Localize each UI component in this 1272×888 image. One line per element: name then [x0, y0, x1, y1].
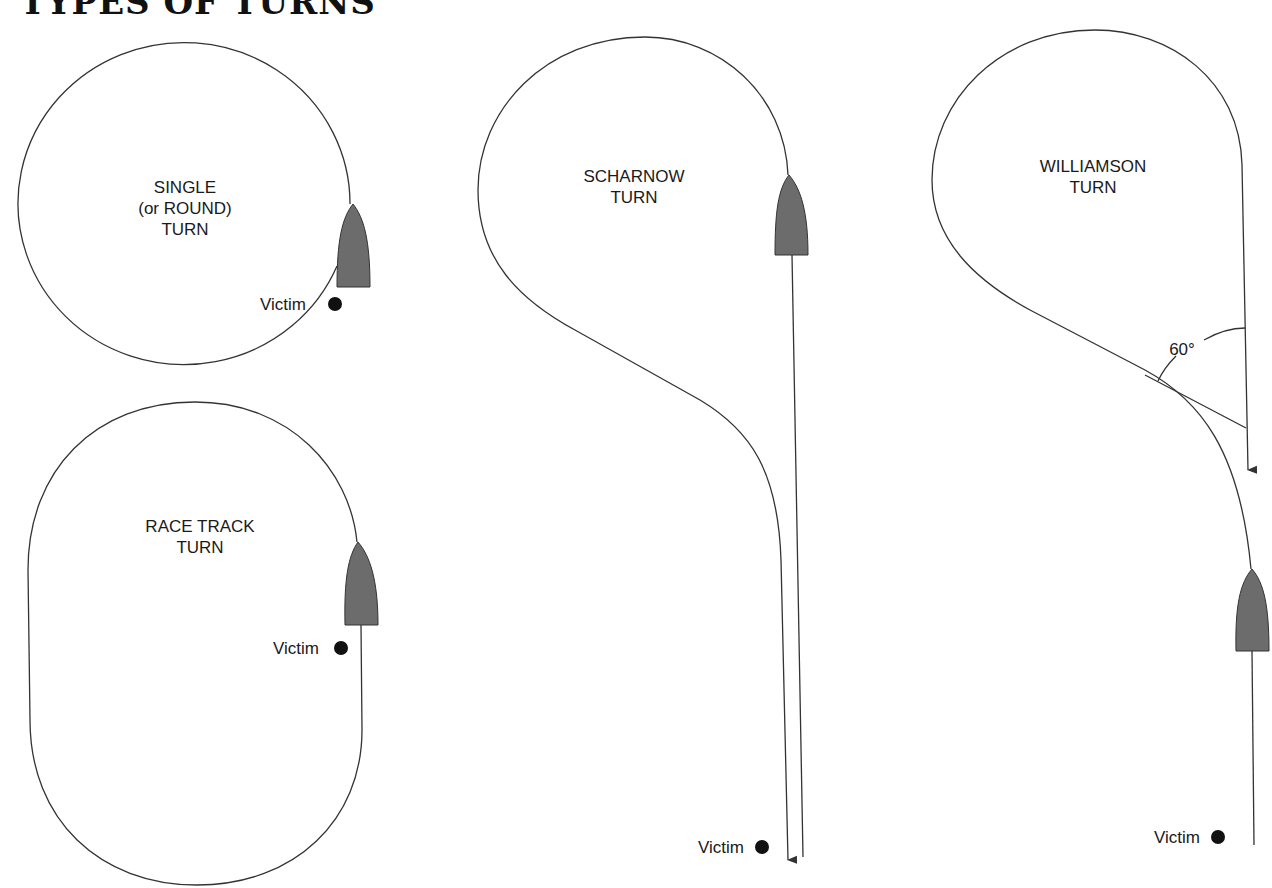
victim-dot-icon [328, 297, 342, 311]
williamson-heading-line [1242, 165, 1248, 470]
scharnow-turn-diagram: SCHARNOW TURN Victim [478, 37, 808, 860]
race-track-label-1: RACE TRACK [145, 517, 255, 536]
boat-icon [1236, 569, 1269, 651]
scharnow-path [478, 37, 788, 860]
williamson-path [932, 30, 1251, 569]
angle-line [1145, 375, 1246, 428]
victim-label: Victim [273, 639, 319, 658]
angle-arc-right [1204, 328, 1245, 340]
scharnow-label-2: TURN [610, 188, 657, 207]
boat-icon [345, 542, 378, 625]
angle-arc-left [1158, 356, 1176, 381]
williamson-turn-diagram: 60° WILLIAMSON TURN Victim [932, 30, 1269, 847]
victim-label: Victim [698, 838, 744, 857]
single-turn-label-3: TURN [161, 220, 208, 239]
victim-dot-icon [755, 840, 769, 854]
angle-label: 60° [1169, 340, 1195, 359]
scharnow-return-line [792, 255, 803, 857]
williamson-track-line [1252, 651, 1254, 845]
single-turn-label-1: SINGLE [154, 178, 216, 197]
race-track-label-2: TURN [176, 538, 223, 557]
victim-label: Victim [1154, 828, 1200, 847]
turns-diagram: SINGLE (or ROUND) TURN Victim RACE TRACK… [0, 0, 1272, 888]
scharnow-label-1: SCHARNOW [583, 167, 684, 186]
boat-icon [775, 175, 808, 255]
boat-icon [337, 204, 370, 287]
victim-dot-icon [1211, 830, 1225, 844]
single-turn-diagram: SINGLE (or ROUND) TURN Victim [18, 43, 370, 365]
single-turn-label-2: (or ROUND) [138, 199, 232, 218]
williamson-label-2: TURN [1069, 178, 1116, 197]
victim-dot-icon [334, 641, 348, 655]
williamson-label-1: WILLIAMSON [1040, 157, 1147, 176]
victim-label: Victim [260, 295, 306, 314]
race-track-turn-diagram: RACE TRACK TURN Victim [28, 402, 378, 885]
